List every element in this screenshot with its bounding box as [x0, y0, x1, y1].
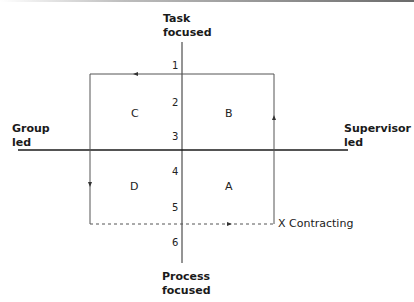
scale-1: 1	[172, 60, 178, 72]
quadrant-diagram	[0, 0, 414, 302]
arrow-left-icon	[133, 72, 138, 76]
scale-6: 6	[172, 237, 178, 249]
scale-4: 4	[172, 166, 178, 178]
quadrant-d: D	[130, 181, 138, 193]
task-focused-label: Task focused	[163, 12, 212, 40]
scale-2: 2	[172, 97, 178, 109]
quadrant-c: C	[131, 108, 139, 120]
arrow-down-icon	[88, 182, 92, 187]
group-led-label: Group led	[12, 122, 50, 150]
arrow-right-icon	[227, 222, 232, 226]
quadrant-a: A	[225, 181, 233, 193]
contracting-label: X Contracting	[278, 217, 353, 231]
arrow-up-icon	[272, 115, 276, 120]
scale-3: 3	[172, 131, 178, 143]
process-focused-label: Process focused	[162, 270, 211, 298]
quadrant-b: B	[225, 108, 233, 120]
scale-5: 5	[172, 202, 178, 214]
supervisor-led-label: Supervisor led	[344, 122, 411, 150]
